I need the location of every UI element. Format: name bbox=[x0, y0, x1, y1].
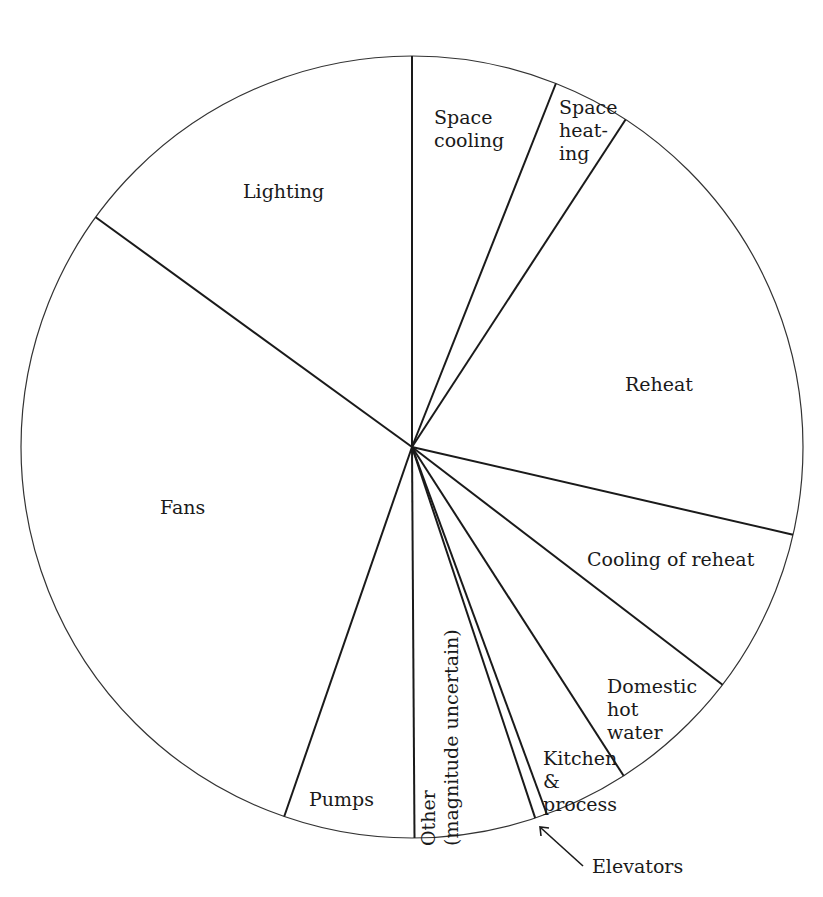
label-pumps: Pumps bbox=[309, 788, 374, 811]
label-reheat: Reheat bbox=[625, 373, 693, 396]
label-domestic-hot-water: Domestic hot water bbox=[607, 675, 697, 744]
elevators-arrow bbox=[540, 827, 583, 866]
label-cooling-of-reheat: Cooling of reheat bbox=[587, 548, 754, 571]
label-lighting: Lighting bbox=[243, 180, 324, 203]
label-elevators: Elevators bbox=[592, 855, 683, 878]
label-fans: Fans bbox=[160, 496, 205, 519]
label-space-heating: Space heat- ing bbox=[559, 96, 617, 165]
label-space-cooling: Space cooling bbox=[434, 106, 504, 152]
pie-chart bbox=[0, 0, 823, 897]
label-other: Other (magnitude uncertain) bbox=[417, 629, 463, 846]
label-kitchen-process: Kitchen & process bbox=[543, 747, 617, 816]
